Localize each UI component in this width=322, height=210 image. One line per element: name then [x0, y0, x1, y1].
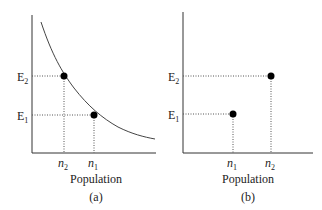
point-e2 [268, 73, 275, 80]
x-label-n2: n2 [58, 156, 68, 172]
panel-b: E2 E1 n1 n2 Population (b) [168, 12, 313, 204]
y-label-e1: E1 [168, 108, 179, 124]
x-label-n1: n1 [88, 156, 98, 172]
y-label-e1: E1 [17, 109, 28, 125]
x-axis-title: Population [222, 172, 274, 186]
x-axis-title: Population [70, 172, 122, 186]
panel-caption: (b) [241, 190, 255, 204]
figure: E2 E1 n2 n1 Population (a) E2 E1 n1 n2 P… [0, 0, 322, 210]
y-label-e2: E2 [17, 70, 28, 86]
y-label-e2: E2 [168, 70, 179, 86]
point-e2 [61, 73, 68, 80]
point-e1 [230, 111, 237, 118]
panel-caption: (a) [89, 190, 102, 204]
curve [41, 22, 155, 139]
x-label-n2: n2 [265, 156, 275, 172]
point-e1 [91, 112, 98, 119]
panel-a: E2 E1 n2 n1 Population (a) [17, 15, 156, 204]
x-label-n1: n1 [227, 156, 237, 172]
